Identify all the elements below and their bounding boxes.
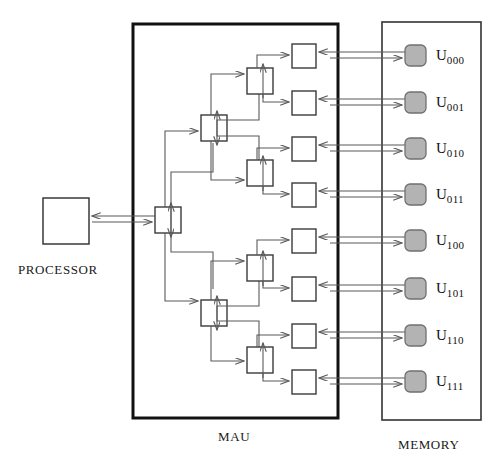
memory-label-7: U111 xyxy=(436,373,463,392)
link-level2c-to-leaf5 xyxy=(263,281,289,288)
switch-node-level2-a[interactable] xyxy=(247,68,273,94)
memory-module-7 xyxy=(405,371,426,392)
processor-box[interactable] xyxy=(43,198,89,244)
switch-node-leaf-6[interactable] xyxy=(292,324,316,348)
link-leaf6-memory6 xyxy=(319,332,405,338)
memory-module-5 xyxy=(405,278,426,299)
switch-node-level2-d[interactable] xyxy=(247,347,273,373)
switch-node-leaf-2[interactable] xyxy=(292,137,316,161)
switch-node-level2-b[interactable] xyxy=(247,160,273,186)
switch-node-level2-c[interactable] xyxy=(247,255,273,281)
link-leaf7-memory7 xyxy=(319,378,405,384)
switch-node-leaf-7[interactable] xyxy=(292,370,316,394)
memory-frame xyxy=(382,22,481,420)
processor-caption: PROCESSOR xyxy=(18,262,98,278)
link-leaf3-memory3 xyxy=(319,191,405,197)
memory-label-6: U110 xyxy=(436,327,464,346)
link-leaf1-memory1 xyxy=(319,99,405,105)
link-leaf4-memory4 xyxy=(319,237,405,243)
memory-module-3 xyxy=(405,184,426,205)
memory-label-3: U011 xyxy=(436,186,464,205)
memory-caption: MEMORY xyxy=(398,437,459,453)
switch-node-level1-lower[interactable] xyxy=(201,300,227,326)
switch-node-root[interactable] xyxy=(155,207,181,233)
link-level2b-to-leaf3 xyxy=(263,186,289,194)
memory-label-4: U100 xyxy=(436,232,464,251)
leaf-memory-links xyxy=(319,52,405,384)
memory-module-4 xyxy=(405,230,426,251)
memory-modules xyxy=(405,45,426,392)
switch-node-leaf-5[interactable] xyxy=(292,277,316,301)
diagram-svg xyxy=(0,0,496,470)
memory-label-5: U101 xyxy=(436,280,464,299)
diagram-canvas: U000 U001 U010 U011 U100 U101 U110 U111 … xyxy=(0,0,496,470)
memory-label-2: U010 xyxy=(436,140,464,159)
memory-module-6 xyxy=(405,325,426,346)
memory-label-1: U001 xyxy=(436,94,464,113)
link-level2a-to-leaf1 xyxy=(263,94,289,102)
memory-module-0 xyxy=(405,45,426,66)
switch-node-leaf-1[interactable] xyxy=(292,91,316,115)
memory-module-1 xyxy=(405,92,426,113)
memory-module-2 xyxy=(405,138,426,159)
processor-root-link xyxy=(92,216,155,222)
switch-node-leaf-3[interactable] xyxy=(292,183,316,207)
switch-node-leaf-0[interactable] xyxy=(292,44,316,68)
switch-node-level1-upper[interactable] xyxy=(201,115,227,141)
link-leaf5-memory5 xyxy=(319,285,405,291)
link-level2d-to-leaf7 xyxy=(263,373,289,381)
link-leaf0-memory0 xyxy=(319,52,405,58)
memory-label-0: U000 xyxy=(436,47,464,66)
switch-node-leaf-4[interactable] xyxy=(292,229,316,253)
mau-caption: MAU xyxy=(218,429,250,445)
link-leaf2-memory2 xyxy=(319,145,405,151)
